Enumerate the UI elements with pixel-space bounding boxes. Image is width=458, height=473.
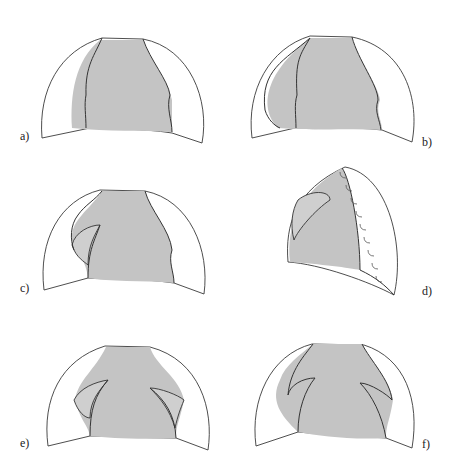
panel-f-drawing (255, 344, 414, 448)
panel-d-drawing (288, 167, 398, 295)
panel-label-a: a) (20, 129, 29, 144)
panel-label-f: f) (422, 437, 430, 452)
panel-label-b: b) (422, 135, 432, 150)
panel-label-d: d) (422, 284, 432, 299)
panel-e-drawing (47, 346, 209, 450)
diagram-canvas (0, 0, 458, 473)
panel-b-drawing (251, 36, 414, 142)
panel-label-c: c) (20, 281, 29, 296)
panel-label-e: e) (20, 436, 29, 451)
panel-c-drawing (43, 190, 205, 294)
panel-a-drawing (42, 38, 204, 143)
